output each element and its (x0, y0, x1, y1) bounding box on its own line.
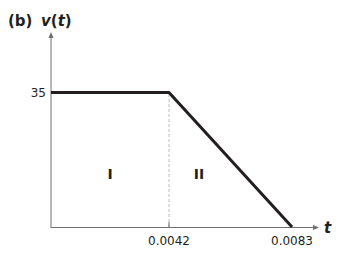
x-tick-label-0: 0.0042 (148, 234, 190, 248)
y-axis-label: v(t) (41, 12, 72, 30)
x-axis-label: t (324, 219, 332, 237)
velocity-line (51, 93, 292, 228)
x-axis-arrow-icon (313, 225, 319, 230)
region-label-I: I (107, 166, 112, 182)
region-label-II: II (194, 166, 204, 182)
y-tick-label-35: 35 (31, 86, 46, 100)
panel-label: (b) (8, 12, 32, 30)
velocity-chart: (b) v(t) t 35 0.0042 0.0083 I II (0, 0, 344, 257)
y-axis-arrow-icon (49, 32, 54, 38)
x-tick-label-1: 0.0083 (271, 234, 313, 248)
